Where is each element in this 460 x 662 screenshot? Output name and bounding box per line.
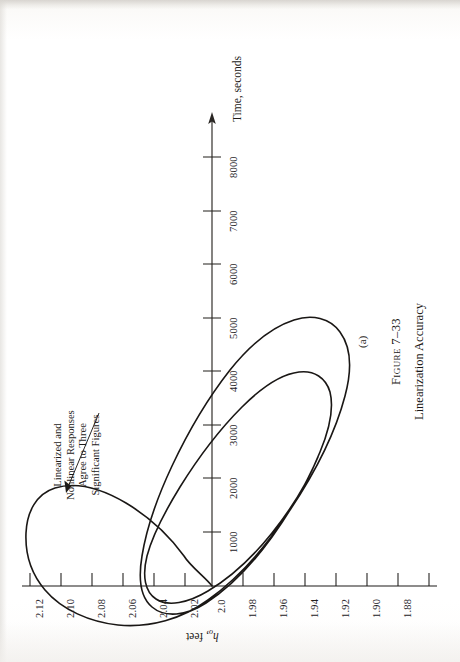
annotation-line-4: Significant Figures [90, 410, 103, 500]
time-tick-label-5000: 5000 [228, 317, 239, 339]
value-axis-unit: , feet [186, 631, 209, 643]
time-tick-label-6000: 6000 [228, 263, 239, 285]
value-axis-title: ho, feet [186, 628, 219, 647]
time-tick-label-1000: 1000 [228, 531, 239, 553]
value-tick-label-1-96: 1.96 [278, 599, 289, 618]
value-tick-label-2-06: 2.06 [127, 599, 138, 618]
time-tick-label-2000: 2000 [228, 477, 239, 499]
value-tick-label-2-0: 2.0 [216, 599, 227, 613]
value-tick-label-2-12: 2.12 [34, 599, 45, 618]
annotation-line-1: Linearized and [52, 410, 65, 500]
time-tick-label-3000: 3000 [228, 424, 239, 446]
time-tick-label-7000: 7000 [228, 210, 239, 232]
value-tick-label-1-88: 1.88 [402, 599, 413, 618]
value-tick-label-2-02: 2.02 [189, 599, 200, 618]
curve-annotation: Linearized and Nonlinear Responses Agree… [52, 410, 102, 500]
time-tick-label-4000: 4000 [228, 370, 239, 392]
time-axis-title: Time, seconds [231, 56, 243, 122]
figure-caption-title: Linearization Accuracy [412, 303, 427, 420]
annotation-line-2: Nonlinear Responses [65, 410, 78, 500]
panel-label: (a) [356, 336, 368, 348]
value-tick-label-1-92: 1.92 [340, 599, 351, 618]
time-axis-group [203, 112, 221, 586]
value-tick-label-1-90: 1.90 [371, 599, 382, 618]
value-axis-symbol: h [213, 631, 219, 643]
value-axis-subscript: o [209, 628, 213, 637]
value-tick-label-2-04: 2.04 [158, 599, 169, 618]
value-tick-label-2-10: 2.10 [65, 599, 76, 618]
value-tick-label-1-98: 1.98 [247, 599, 258, 618]
figure-caption-number: Figure 7–33 [389, 318, 404, 385]
time-tick-label-8000: 8000 [228, 156, 239, 178]
annotation-line-3: Agree to Three [77, 410, 90, 500]
value-tick-label-2-08: 2.08 [96, 599, 107, 618]
scanned-page: 2.12 2.10 2.08 2.06 2.04 2.02 2.0 1.98 1… [0, 0, 460, 662]
value-tick-label-1-94: 1.94 [309, 599, 320, 618]
